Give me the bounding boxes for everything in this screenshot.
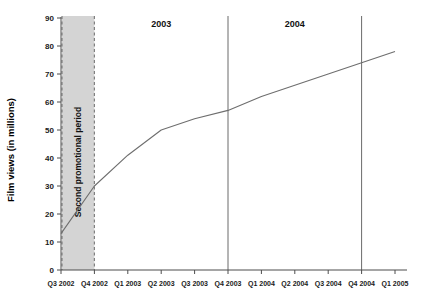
y-tick-label: 50 <box>45 126 54 135</box>
y-tick-label: 0 <box>50 266 55 275</box>
y-tick-label: 10 <box>45 238 54 247</box>
y-tick-label: 20 <box>45 210 54 219</box>
x-tick-label: Q3 2002 <box>48 280 75 288</box>
x-tick-label: Q1 2004 <box>248 280 275 288</box>
y-axis-title: Film views (in millions) <box>5 98 16 202</box>
y-tick-label: 80 <box>45 42 54 51</box>
x-tick-label: Q4 2004 <box>348 280 375 288</box>
x-tick-label: Q1 2003 <box>114 280 141 288</box>
x-tick-label: Q1 2005 <box>382 280 409 288</box>
y-tick-label: 40 <box>45 154 54 163</box>
x-tick-label: Q4 2003 <box>215 280 242 288</box>
y-tick-label: 30 <box>45 182 54 191</box>
band-label: Second promotional period <box>73 107 83 218</box>
chart-canvas: Second promotional period 20032004 01020… <box>0 0 421 307</box>
x-tick-label: Q3 2003 <box>181 280 208 288</box>
y-tick-label: 60 <box>45 98 54 107</box>
year-divider-lines <box>228 16 362 270</box>
film-views-chart: Second promotional period 20032004 01020… <box>0 0 421 307</box>
x-tick-label: Q4 2002 <box>81 280 108 288</box>
y-axis-ticks: 0102030405060708090 <box>45 14 61 275</box>
y-tick-label: 90 <box>45 14 54 23</box>
x-tick-label: Q3 2004 <box>315 280 342 288</box>
y-tick-label: 70 <box>45 70 54 79</box>
x-axis-ticks: Q3 2002Q4 2002Q1 2003Q2 2003Q3 2003Q4 20… <box>48 270 409 288</box>
x-tick-label: Q2 2004 <box>281 280 308 288</box>
year-label: 2004 <box>285 19 305 29</box>
year-label: 2003 <box>151 19 171 29</box>
shaded-band-group: Second promotional period <box>62 16 94 270</box>
x-tick-label: Q2 2003 <box>148 280 175 288</box>
